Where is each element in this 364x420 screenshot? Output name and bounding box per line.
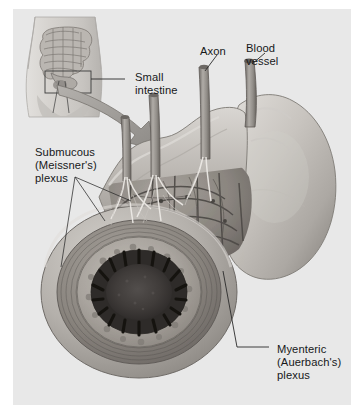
blood-vessel-stalk xyxy=(245,61,256,127)
figure-page: Small intestine Axon Blood vessel Submuc… xyxy=(0,0,364,420)
illustration-panel: Small intestine Axon Blood vessel Submuc… xyxy=(13,9,351,405)
intestine-cross-section xyxy=(41,205,237,378)
axon-stalk xyxy=(199,67,210,159)
submucous-plexus-label: Submucous (Meissner's) plexus xyxy=(35,146,97,186)
small-intestine-label: Small intestine xyxy=(135,71,178,97)
torso-inset xyxy=(26,17,125,117)
intestinal-lumen xyxy=(106,264,172,320)
axon-label: Axon xyxy=(200,45,226,58)
blood-vessel-label: Blood vessel xyxy=(246,42,278,68)
nerve-stalk xyxy=(149,95,160,177)
myenteric-plexus-label: Myenteric (Auerbach's) plexus xyxy=(277,343,341,383)
